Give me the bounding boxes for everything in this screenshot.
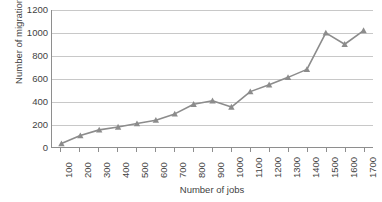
x-axis-tick-label: 500: [140, 162, 150, 178]
y-axis-tick-label: 400: [18, 97, 48, 107]
x-axis-tick-label: 200: [83, 162, 93, 178]
x-axis-tick-label: 700: [178, 162, 188, 178]
y-axis-tick-labels: 020040060080010001200: [18, 10, 48, 148]
data-series-layer: [52, 10, 373, 147]
x-axis-tick-label: 1100: [254, 158, 264, 178]
data-point-marker: [360, 27, 366, 33]
y-axis-tick-label: 200: [18, 120, 48, 130]
x-axis-tick-label: 1000: [235, 157, 245, 178]
x-axis-tick-label: 300: [102, 162, 112, 178]
y-axis-tick-label: 800: [18, 51, 48, 61]
y-axis-tick-label: 1200: [18, 5, 48, 15]
x-axis-tick-label: 1400: [311, 157, 321, 178]
x-axis-tick-label: 1200: [273, 157, 283, 178]
x-axis-tick-label: 1500: [330, 157, 340, 178]
x-axis-tick-label: 800: [197, 162, 207, 178]
x-axis-tick-label: 400: [121, 162, 131, 178]
plot-area: [51, 10, 373, 148]
data-point-marker: [304, 66, 310, 72]
data-point-marker: [323, 30, 329, 36]
x-axis-tick-label: 1300: [292, 157, 302, 178]
x-axis-tick-label: 1700: [368, 157, 378, 178]
x-axis-tick-label: 900: [216, 162, 226, 178]
x-axis-tick-labels: 1002003004005006007008009001000110012001…: [51, 152, 373, 180]
data-point-marker: [172, 111, 178, 117]
x-axis-title: Number of jobs: [51, 184, 373, 195]
y-axis-tick-label: 0: [18, 143, 48, 153]
line-chart: Number of migrations 0200400600800100012…: [0, 0, 382, 202]
x-axis-tick-label: 1600: [349, 157, 359, 178]
y-axis-tick-label: 1000: [18, 28, 48, 38]
y-axis-tick-label: 600: [18, 74, 48, 84]
x-axis-tick-label: 600: [159, 162, 169, 178]
series-line: [61, 31, 363, 144]
x-axis-tick-label: 100: [64, 162, 74, 178]
